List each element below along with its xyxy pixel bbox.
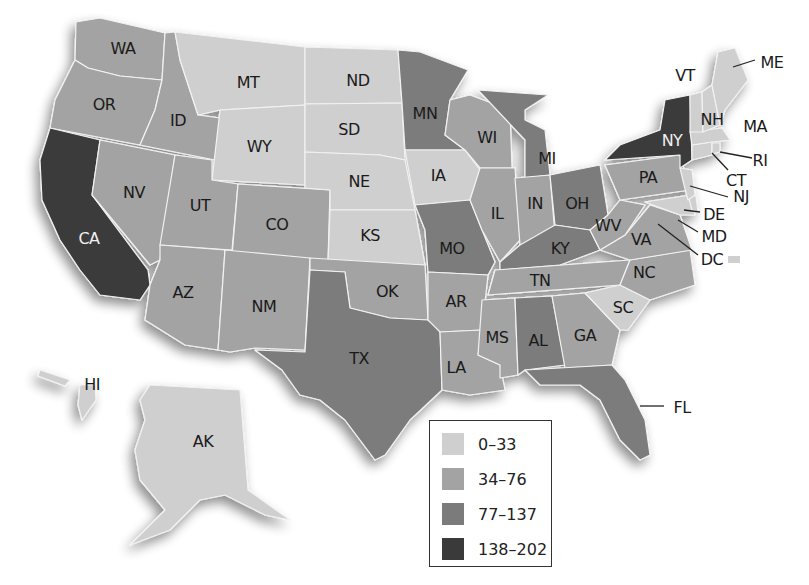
label-or: OR — [93, 95, 116, 114]
state-ak — [130, 385, 290, 545]
legend-item: 0–33 — [442, 432, 517, 456]
legend-label: 138–202 — [478, 540, 547, 559]
label-nh: NH — [701, 110, 724, 129]
label-fl: FL — [673, 398, 690, 417]
dc-swatch — [728, 256, 740, 263]
label-wy: WY — [247, 137, 272, 156]
label-ms: MS — [486, 328, 509, 347]
label-sd: SD — [338, 120, 359, 139]
label-nv: NV — [123, 183, 145, 202]
label-ny: NY — [662, 131, 683, 150]
label-va: VA — [631, 230, 651, 249]
legend-swatch — [442, 468, 464, 490]
label-mt: MT — [237, 73, 260, 92]
label-oh: OH — [565, 194, 589, 213]
label-nc: NC — [633, 263, 655, 282]
label-de: DE — [703, 205, 724, 224]
label-ut: UT — [190, 196, 210, 215]
label-ks: KS — [360, 226, 380, 245]
label-ga: GA — [574, 326, 596, 345]
legend-label: 0–33 — [478, 435, 517, 454]
state-ri — [712, 143, 720, 154]
label-mn: MN — [413, 104, 438, 123]
label-nj: NJ — [733, 187, 749, 206]
label-md: MD — [701, 227, 726, 246]
label-co: CO — [266, 215, 289, 234]
label-ma: MA — [743, 117, 767, 136]
label-ri: RI — [753, 151, 768, 170]
label-ky: KY — [551, 239, 570, 258]
leader-ri — [720, 152, 752, 158]
label-nd: ND — [346, 71, 369, 90]
label-wa: WA — [111, 39, 136, 58]
label-al: AL — [529, 331, 548, 350]
legend-swatch — [442, 433, 464, 455]
label-dc: DC — [701, 250, 724, 269]
legend: 0–33 34–76 77–137 138–202 — [429, 420, 552, 567]
label-hi: HI — [84, 375, 100, 394]
label-id: ID — [170, 111, 186, 130]
legend-label: 77–137 — [478, 505, 537, 524]
label-tn: TN — [530, 271, 551, 290]
label-ar: AR — [445, 292, 466, 311]
state-hi-islands — [38, 370, 70, 386]
label-az: AZ — [173, 283, 194, 302]
label-wv: WV — [595, 216, 621, 235]
label-ok: OK — [376, 282, 398, 301]
label-ca: CA — [78, 229, 99, 248]
leader-nj — [690, 186, 728, 197]
label-ak: AK — [193, 432, 213, 451]
legend-item: 77–137 — [442, 502, 537, 526]
label-ia: IA — [431, 166, 446, 185]
us-choropleth-map — [0, 0, 809, 585]
label-il: IL — [491, 204, 504, 223]
leader-ct — [712, 153, 728, 170]
legend-item: 34–76 — [442, 467, 527, 491]
label-tx: TX — [349, 349, 369, 368]
label-sc: SC — [613, 298, 633, 317]
label-pa: PA — [639, 168, 658, 187]
legend-label: 34–76 — [478, 470, 527, 489]
label-ne: NE — [348, 172, 369, 191]
label-vt: VT — [675, 66, 695, 85]
label-mi: MI — [538, 149, 556, 168]
label-la: LA — [446, 358, 465, 377]
label-wi: WI — [477, 128, 497, 147]
legend-item: 138–202 — [442, 537, 547, 561]
label-in: IN — [527, 194, 543, 213]
legend-swatch — [442, 538, 464, 560]
label-mo: MO — [439, 239, 464, 258]
label-nm: NM — [252, 297, 277, 316]
label-me: ME — [761, 53, 784, 72]
legend-swatch — [442, 503, 464, 525]
